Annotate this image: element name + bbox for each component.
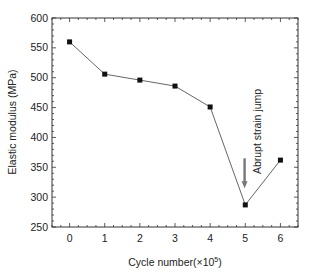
data-point-marker bbox=[137, 78, 142, 83]
y-tick-label: 350 bbox=[30, 161, 48, 173]
annotation: Abrupt strain jump bbox=[242, 89, 264, 188]
x-axis-title: Cycle number(×105) bbox=[128, 256, 222, 268]
y-axis-title: Elastic modulus (MPa) bbox=[6, 69, 18, 174]
x-tick-label: 4 bbox=[207, 232, 213, 244]
annotation-text: Abrupt strain jump bbox=[251, 89, 263, 174]
data-point-marker bbox=[243, 202, 248, 207]
arrow-shaft bbox=[243, 158, 245, 182]
y-tick-label: 500 bbox=[30, 71, 48, 83]
y-tick-label: 250 bbox=[30, 221, 48, 233]
series-line bbox=[70, 42, 281, 205]
data-point-marker bbox=[208, 104, 213, 109]
x-axis-title-close: ) bbox=[218, 256, 222, 268]
x-tick-label: 1 bbox=[102, 232, 108, 244]
x-tick-label: 2 bbox=[137, 232, 143, 244]
arrow-down-icon bbox=[242, 181, 248, 188]
y-tick-label: 450 bbox=[30, 101, 48, 113]
x-tick-label: 5 bbox=[242, 232, 248, 244]
data-point-marker bbox=[67, 39, 72, 44]
x-tick-label: 3 bbox=[172, 232, 178, 244]
x-tick-label: 0 bbox=[67, 232, 73, 244]
data-point-marker bbox=[278, 158, 283, 163]
x-tick-label: 6 bbox=[278, 232, 284, 244]
data-point-marker bbox=[102, 72, 107, 77]
x-axis-title-main: Cycle number(×10 bbox=[128, 256, 214, 268]
data-point-marker bbox=[173, 84, 178, 89]
y-tick-label: 600 bbox=[30, 12, 48, 24]
y-tick-label: 400 bbox=[30, 131, 48, 143]
chart: 250300350400450500550600 0123456 Abrupt … bbox=[0, 0, 312, 272]
y-tick-label: 550 bbox=[30, 41, 48, 53]
y-tick-label: 300 bbox=[30, 191, 48, 203]
